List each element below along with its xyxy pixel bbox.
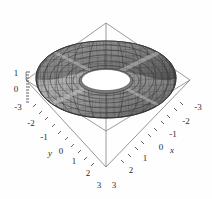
y-axis-name: y: [47, 148, 52, 158]
x-tick-label-2: 2: [129, 165, 134, 175]
torus-hole: [82, 69, 131, 90]
z-tick-label-0: 0: [14, 84, 19, 94]
figure-canvas: 1 0 -3 -2 -1 0 1 2 3 y: [0, 0, 212, 199]
y-tick-label-0: 0: [59, 146, 64, 156]
y-tick-label-m2: -2: [27, 118, 35, 128]
z-axis-ticks: [26, 72, 30, 102]
y-tick-label-m3: -3: [14, 102, 22, 112]
x-tick-label-m2: -2: [182, 116, 190, 126]
y-tick-label-1: 1: [72, 156, 77, 166]
z-axis: 1 0: [14, 68, 30, 102]
z-tick-label-1: 1: [14, 68, 19, 78]
x-tick-label-m3: -3: [194, 102, 202, 112]
y-tick-label-2: 2: [86, 168, 91, 178]
x-tick-label-1: 1: [143, 153, 148, 163]
y-tick-label-3: 3: [97, 180, 102, 190]
x-tick-label-0: 0: [159, 142, 164, 152]
torus-plot-svg: 1 0 -3 -2 -1 0 1 2 3 y: [0, 0, 212, 199]
y-tick-label-m1: -1: [40, 132, 48, 142]
x-tick-label-3: 3: [112, 180, 117, 190]
x-tick-label-m1: -1: [169, 129, 177, 139]
x-axis-name: x: [169, 145, 174, 155]
